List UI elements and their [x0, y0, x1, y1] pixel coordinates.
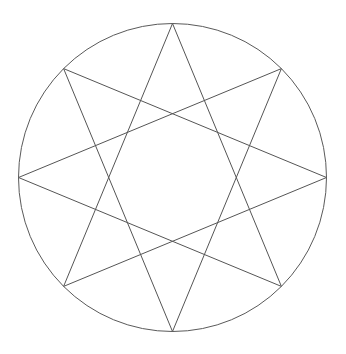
- figure-container: [0, 0, 346, 354]
- star-polygon-figure: [0, 0, 346, 354]
- figure-background: [0, 0, 346, 354]
